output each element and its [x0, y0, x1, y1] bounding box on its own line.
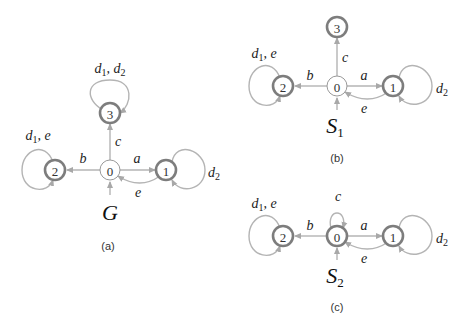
edge-label-e: e [361, 251, 367, 266]
edge-label-b: b [307, 68, 314, 83]
node-0-label: 0 [334, 80, 341, 95]
edge-label-c: c [342, 50, 349, 65]
edge-label-b: b [307, 218, 314, 233]
edge-1-to-0-e [118, 176, 160, 183]
edge-label-e: e [361, 101, 367, 116]
node-3: 3 [100, 103, 120, 123]
node-1: 1 [383, 226, 403, 246]
automaton-name-g: G [102, 200, 118, 225]
node-2: 2 [45, 160, 65, 180]
edge-label-b: b [80, 151, 87, 166]
edge-label-d1-e: d1, e [251, 46, 276, 63]
automaton-name-s2: S2 [326, 263, 344, 290]
node-2: 2 [273, 76, 293, 96]
edge-label-c: c [115, 134, 122, 149]
node-1-label: 1 [390, 230, 397, 245]
node-1: 1 [383, 76, 403, 96]
node-0: 0 [327, 76, 347, 96]
edge-label-d1-e: d1, e [25, 128, 50, 145]
node-0-label: 0 [334, 230, 341, 245]
node-2: 2 [273, 226, 293, 246]
node-3-label: 3 [334, 21, 341, 36]
edge-label-c: c [335, 189, 342, 204]
edge-label-e: e [135, 185, 141, 200]
edge-label-a: a [361, 218, 368, 233]
figure-c: 0 1 2 b a c e d2 d1, e S2 (c) [249, 189, 448, 313]
node-0-label: 0 [107, 164, 114, 179]
edge-1-to-0-e [345, 242, 388, 249]
node-1: 1 [156, 160, 176, 180]
edge-label-d2: d2 [208, 165, 220, 182]
node-1-label: 1 [163, 164, 170, 179]
edge-1-to-0-e [345, 92, 388, 99]
edge-label-d1-d2: d1, d2 [95, 61, 126, 78]
edge-label-a: a [134, 151, 141, 166]
node-1-label: 1 [390, 80, 397, 95]
node-2-label: 2 [280, 230, 287, 245]
automaton-name-s1: S1 [326, 113, 344, 140]
node-0: 0 [100, 160, 120, 180]
node-3-label: 3 [107, 107, 114, 122]
node-3: 3 [327, 17, 347, 37]
node-2-label: 2 [52, 164, 59, 179]
figure-b: 0 1 2 3 b a c e d2 d1, e S1 (b) [249, 17, 448, 164]
node-2-label: 2 [280, 80, 287, 95]
node-0: 0 [327, 226, 347, 246]
edge-label-d2: d2 [436, 81, 448, 98]
diagram-canvas: 0 1 2 3 b a c e d2 d1, e d1, d2 G (a) [0, 0, 456, 330]
caption-b: (b) [330, 152, 343, 164]
edge-label-a: a [361, 68, 368, 83]
caption-a: (a) [101, 240, 114, 252]
edge-label-d1-e: d1, e [251, 196, 276, 213]
edge-label-d2: d2 [436, 231, 448, 248]
caption-c: (c) [331, 301, 344, 313]
figure-a: 0 1 2 3 b a c e d2 d1, e d1, d2 G (a) [22, 61, 220, 252]
